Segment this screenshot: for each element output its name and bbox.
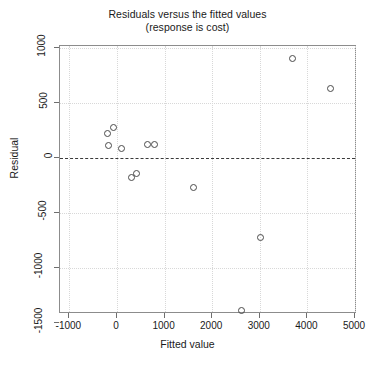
x-axis-tick bbox=[259, 313, 260, 318]
scatter-point bbox=[151, 141, 158, 148]
scatter-point bbox=[133, 170, 140, 177]
y-axis-tick-label: 1000 bbox=[0, 40, 52, 51]
y-axis-tick bbox=[54, 322, 59, 323]
y-gridline bbox=[60, 48, 355, 49]
scatter-point bbox=[105, 142, 112, 149]
x-axis-tick bbox=[211, 313, 212, 318]
scatter-point bbox=[257, 234, 264, 241]
y-axis-tick-label: 500 bbox=[0, 95, 52, 106]
x-gridline bbox=[355, 46, 356, 312]
y-axis-tick bbox=[54, 157, 59, 158]
x-gridline bbox=[212, 46, 213, 312]
x-axis-tick bbox=[306, 313, 307, 318]
y-gridline bbox=[60, 103, 355, 104]
x-gridline bbox=[165, 46, 166, 312]
y-axis-tick-label: -1000 bbox=[0, 260, 52, 271]
zero-reference-line bbox=[60, 158, 355, 159]
y-axis-tick bbox=[54, 102, 59, 103]
chart-title: Residuals versus the fitted values bbox=[0, 8, 375, 21]
scatter-point bbox=[110, 124, 117, 131]
x-axis-tick-label: 5000 bbox=[324, 320, 375, 331]
x-gridline bbox=[117, 46, 118, 312]
x-gridline bbox=[69, 46, 70, 312]
x-axis-tick bbox=[164, 313, 165, 318]
y-axis-tick-label: -1500 bbox=[0, 315, 52, 326]
plot-area bbox=[59, 45, 356, 313]
scatter-point bbox=[327, 85, 334, 92]
x-axis-tick bbox=[68, 313, 69, 318]
y-axis-tick bbox=[54, 267, 59, 268]
scatter-point bbox=[289, 55, 296, 62]
chart-title-block: Residuals versus the fitted values (resp… bbox=[0, 8, 375, 34]
x-axis-title: Fitted value bbox=[0, 338, 375, 350]
scatter-point bbox=[118, 145, 125, 152]
chart-subtitle: (response is cost) bbox=[0, 21, 375, 34]
y-axis-tick bbox=[54, 212, 59, 213]
x-axis-tick bbox=[354, 313, 355, 318]
y-axis-tick-label: -500 bbox=[0, 205, 52, 216]
residual-scatter-chart: Residuals versus the fitted values (resp… bbox=[0, 0, 375, 372]
scatter-point bbox=[190, 184, 197, 191]
y-axis-title: Residual bbox=[8, 118, 20, 198]
scatter-point bbox=[104, 130, 111, 137]
y-gridline bbox=[60, 268, 355, 269]
x-gridline bbox=[260, 46, 261, 312]
y-gridline bbox=[60, 213, 355, 214]
x-axis-tick bbox=[116, 313, 117, 318]
y-axis-tick bbox=[54, 47, 59, 48]
x-gridline bbox=[307, 46, 308, 312]
scatter-point bbox=[238, 307, 245, 314]
